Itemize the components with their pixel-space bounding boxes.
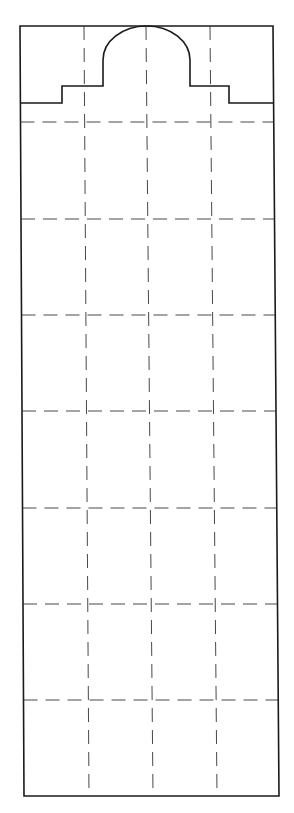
- template-drawing: [0, 0, 294, 813]
- stepped-arch-profile: [20, 26, 273, 103]
- vertical-fold-line-2: [146, 26, 153, 796]
- vertical-fold-lines: [84, 26, 217, 796]
